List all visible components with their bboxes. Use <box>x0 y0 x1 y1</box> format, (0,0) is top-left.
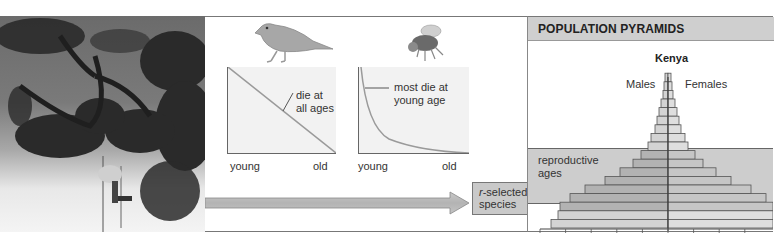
male-bar <box>570 194 668 203</box>
female-bar <box>668 219 773 228</box>
female-bar <box>668 90 673 99</box>
male-bar <box>663 90 668 99</box>
female-bar <box>668 151 695 160</box>
female-bar <box>668 82 672 91</box>
female-bar <box>668 99 675 108</box>
female-bar <box>668 142 688 151</box>
female-bar <box>668 211 773 220</box>
male-bar <box>657 116 668 125</box>
female-bar <box>668 176 731 185</box>
male-bar <box>633 159 668 168</box>
female-bar <box>668 194 766 203</box>
male-bar <box>641 151 668 160</box>
female-bar <box>668 108 677 117</box>
female-bar <box>668 133 685 142</box>
female-bar <box>668 116 679 125</box>
female-bar <box>668 168 716 177</box>
male-bar <box>655 125 668 134</box>
male-bar <box>585 185 668 194</box>
male-bar <box>648 142 668 151</box>
male-bar <box>551 219 668 228</box>
female-bar <box>668 125 681 134</box>
male-bar <box>558 211 668 220</box>
male-bar <box>659 108 668 117</box>
male-bar <box>664 82 668 91</box>
female-bar <box>668 202 773 211</box>
male-bar <box>661 99 668 108</box>
female-bar <box>668 159 703 168</box>
male-bar <box>560 202 668 211</box>
male-bar <box>605 176 668 185</box>
female-bar <box>668 185 751 194</box>
male-bar <box>651 133 668 142</box>
male-bar <box>620 168 668 177</box>
